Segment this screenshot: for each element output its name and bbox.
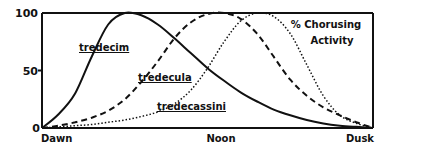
x-tick-label-noon: Noon	[206, 133, 235, 144]
y-tick-label-100: 100	[15, 7, 38, 20]
x-tick-label-dawn: Dawn	[41, 133, 72, 144]
chart-title-line-1: % Chorusing	[291, 19, 362, 30]
y-tick-label-0: 0	[32, 122, 40, 135]
series-label-tredecula: tredecula	[138, 72, 192, 83]
x-tick-label-dusk: Dusk	[346, 133, 374, 144]
y-tick-label-50: 50	[23, 65, 39, 78]
chorusing-activity-chart: 100 50 0 Dawn Noon Dusk % Chorusing Acti…	[0, 0, 425, 151]
series-label-tredecassini: tredecassini	[157, 101, 226, 112]
chart-title-line-2: Activity	[310, 35, 354, 46]
series-label-tredecim: tredecim	[79, 42, 129, 53]
